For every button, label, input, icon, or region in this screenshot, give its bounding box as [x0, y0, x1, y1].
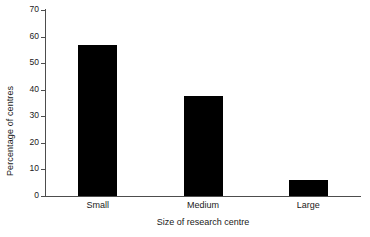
x-axis-title: Size of research centre: [45, 217, 361, 228]
y-axis-tick-label: 40: [17, 85, 39, 94]
y-axis-tick-labels: 010203040506070: [0, 0, 39, 237]
bar-chart-figure: Percentage of centres 010203040506070 Sm…: [0, 0, 370, 237]
y-axis-tick-label: 60: [17, 32, 39, 41]
x-axis-tick-label: Small: [48, 200, 148, 211]
y-axis-tick-label: 50: [17, 58, 39, 67]
y-axis-tick-label: 70: [17, 5, 39, 14]
x-axis-tick-label: Large: [258, 200, 358, 211]
y-axis-tick-label: 20: [17, 138, 39, 147]
y-axis-tick-label: 10: [17, 164, 39, 173]
y-axis-tick-label: 30: [17, 111, 39, 120]
bar: [78, 45, 117, 196]
bars-layer: [45, 10, 361, 196]
bar: [289, 180, 328, 196]
x-axis-tick-label: Medium: [153, 200, 253, 211]
bar: [184, 96, 223, 196]
y-axis-tick-label: 0: [17, 191, 39, 200]
x-axis-line: [45, 196, 361, 197]
